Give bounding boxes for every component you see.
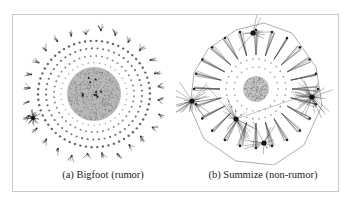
panel-summize-graph (176, 15, 340, 193)
propagation-graph-non-rumor (176, 15, 340, 165)
propagation-graph-rumor (13, 15, 176, 165)
caption-a: (a) Bigfoot (rumor) (53, 169, 153, 180)
figure-frame: (a) Bigfoot (rumor) (b) Summize (non-rum… (12, 14, 339, 192)
caption-b: (b) Summize (non-rumor) (203, 169, 323, 180)
panel-bigfoot-graph (13, 15, 176, 193)
